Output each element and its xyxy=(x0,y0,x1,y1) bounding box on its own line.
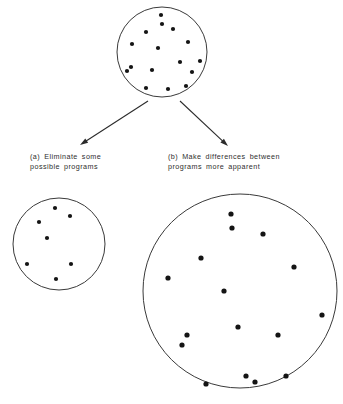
arrow-to-right-circle-line xyxy=(180,101,224,143)
program-dot xyxy=(260,231,265,236)
program-dot xyxy=(184,84,188,88)
program-dot xyxy=(275,332,280,337)
program-dot xyxy=(45,236,49,240)
program-dot xyxy=(319,312,324,317)
program-dot xyxy=(150,68,154,72)
program-dot xyxy=(68,214,72,218)
diagram-root: (a) Eliminate some possible programs (b)… xyxy=(0,0,343,404)
program-dot xyxy=(165,275,170,280)
program-dot xyxy=(186,40,190,44)
initial-program-space-group xyxy=(117,7,207,97)
program-dot xyxy=(291,264,296,269)
program-dot xyxy=(198,255,203,260)
program-dot xyxy=(125,69,129,73)
program-dot xyxy=(252,379,257,384)
program-dot xyxy=(235,324,240,329)
program-dot xyxy=(156,46,160,50)
program-dot xyxy=(159,13,163,17)
expanded-program-space-dots xyxy=(165,211,324,386)
program-dot xyxy=(190,70,194,74)
program-dot xyxy=(160,22,164,26)
program-dot xyxy=(144,30,148,34)
program-dot xyxy=(228,211,233,216)
reduced-program-space-group xyxy=(13,198,105,290)
program-dot xyxy=(221,288,226,293)
arrow-group xyxy=(80,101,228,146)
program-dot xyxy=(54,277,58,281)
reduced-program-space-circle xyxy=(13,198,105,290)
expanded-program-space-group xyxy=(143,194,337,388)
program-dot xyxy=(25,262,29,266)
program-dot xyxy=(144,86,148,90)
caption-a: (a) Eliminate some possible programs xyxy=(30,152,150,171)
program-dot xyxy=(283,373,288,378)
program-dot xyxy=(53,206,57,210)
program-dot xyxy=(184,332,189,337)
program-dot xyxy=(229,225,234,230)
initial-program-space-dots xyxy=(125,13,202,91)
program-dot xyxy=(179,342,184,347)
reduced-program-space-dots xyxy=(25,206,73,281)
program-dot xyxy=(171,27,175,31)
program-dot xyxy=(198,59,202,63)
arrow-to-left-circle-line xyxy=(84,101,148,142)
program-dot xyxy=(69,262,73,266)
program-dot xyxy=(178,60,182,64)
program-dot xyxy=(129,65,133,69)
expanded-program-space-circle xyxy=(143,194,337,388)
arrow-to-left-circle-head xyxy=(80,138,88,145)
initial-program-space-circle xyxy=(117,7,207,97)
program-dot xyxy=(243,373,248,378)
caption-b: (b) Make differences between programs mo… xyxy=(168,152,308,171)
program-dot xyxy=(203,381,208,386)
figure-canvas xyxy=(0,0,343,404)
program-dot xyxy=(166,87,170,91)
program-dot xyxy=(130,42,134,46)
program-dot xyxy=(37,220,41,224)
